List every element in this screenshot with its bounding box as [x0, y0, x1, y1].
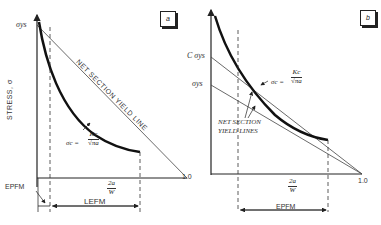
yield-pointer-1-b	[245, 92, 252, 118]
epfm-pointer-a	[36, 191, 45, 203]
panel-b	[211, 10, 362, 212]
y-axis-label-a: STRESS, σ	[6, 79, 13, 120]
y-tick-sigma-ys-a: σys	[16, 21, 27, 29]
x-tick-end-b: 1.0	[358, 177, 368, 184]
epfm-label-b: EPFM	[276, 203, 295, 210]
y-tick-sigma-ys-b: σys	[192, 80, 203, 88]
y-tick-c-sigma-ys-b: C σys	[187, 52, 205, 60]
curve-pointer-b	[261, 81, 268, 85]
x-axis-label-b: 2a W	[288, 178, 297, 194]
curve-eq-lhs-a: σc =	[66, 140, 79, 147]
x-tick-end-a: 1.0	[182, 173, 192, 180]
net-section-label-b: NET SECTION	[218, 119, 261, 126]
x-label-den-a: W	[107, 189, 116, 197]
x-axis-label-a: 2a W	[107, 180, 116, 196]
panel-b-tag: b	[360, 10, 376, 26]
panel-a-tag: a	[160, 11, 176, 27]
diagram-canvas	[0, 0, 381, 225]
net-section-yield-line-upper-b	[211, 57, 362, 174]
yield-lines-label-b: YIELD LINES	[218, 128, 258, 135]
epfm-label-a: EPFM	[5, 183, 24, 190]
net-section-yield-line-a	[37, 25, 187, 178]
curve-eq-lhs-b: σc =	[271, 79, 284, 86]
curve-eq-frac-a: Kc √πa	[88, 131, 99, 147]
curve-eq-den-b: √πa	[291, 78, 302, 86]
curve-eq-frac-b: Kc √πa	[291, 69, 302, 85]
x-label-den-b: W	[288, 187, 297, 195]
lefm-label-a: LEFM	[84, 198, 105, 206]
curve-eq-den-a: √πa	[88, 140, 99, 148]
